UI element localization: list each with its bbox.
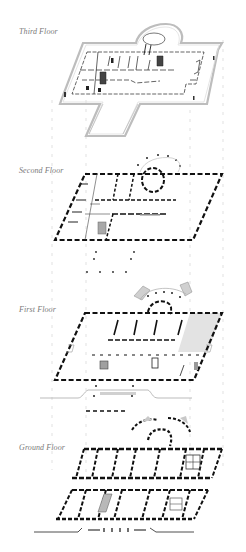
first-floor-plan <box>40 282 222 411</box>
exploded-axonometric-diagram: Third Floor Second Floor First Floor Gro… <box>0 0 246 552</box>
ground-floor-plan <box>34 416 222 532</box>
third-floor-plan <box>60 24 222 136</box>
vertical-guides <box>52 40 223 480</box>
second-floor-plan <box>55 154 222 273</box>
floor-plans-drawing <box>0 0 246 552</box>
